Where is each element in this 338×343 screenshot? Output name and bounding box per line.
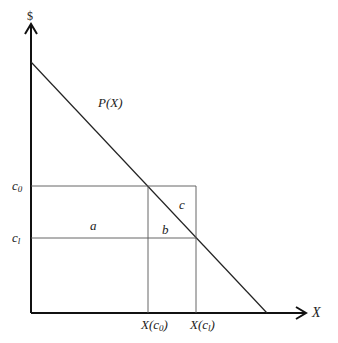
region-a-label: a bbox=[90, 219, 97, 232]
x-c0-base: X(c bbox=[141, 317, 159, 332]
x-c0-end: ) bbox=[164, 317, 168, 332]
c1-label: cl bbox=[12, 231, 20, 246]
diagram-canvas bbox=[0, 0, 338, 343]
region-b-label: b bbox=[162, 223, 169, 236]
c0-sub: 0 bbox=[18, 184, 23, 194]
c1-sub: l bbox=[18, 236, 21, 246]
c0-label: c0 bbox=[12, 179, 22, 194]
y-axis-label: $ bbox=[27, 10, 33, 22]
curve-label: P(X) bbox=[98, 96, 123, 109]
region-c-label: c bbox=[179, 198, 185, 211]
demand-line bbox=[31, 62, 267, 313]
x-axis-label: X bbox=[312, 306, 321, 320]
x-c1-base: X(c bbox=[190, 317, 208, 332]
x-c1-end: ) bbox=[211, 317, 215, 332]
x-c0-tick-label: X(c0) bbox=[141, 318, 168, 333]
x-c1-tick-label: X(cl) bbox=[190, 318, 215, 333]
